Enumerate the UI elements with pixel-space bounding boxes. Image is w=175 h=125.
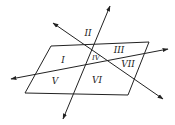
region-label-V: V: [52, 77, 59, 86]
region-label-IV: IV: [92, 55, 100, 62]
shallow-line: [11, 49, 168, 79]
region-label-II: II: [84, 29, 91, 38]
diagram-canvas: I II III IV V VI VII: [0, 0, 175, 125]
region-label-I: I: [61, 56, 65, 65]
region-label-VI: VI: [92, 76, 102, 85]
steep-line: [63, 6, 110, 119]
diagonal-line: [53, 23, 163, 99]
region-label-III: III: [114, 46, 125, 55]
region-label-VII: VII: [121, 60, 135, 69]
plane-parallelogram: [25, 42, 149, 95]
diagram-svg: [0, 0, 175, 125]
